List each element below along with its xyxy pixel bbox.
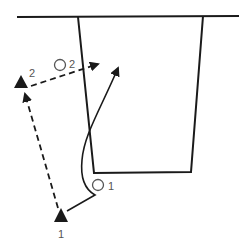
- triangle-player-2-icon: [14, 75, 28, 88]
- triangle-1-label: 1: [58, 228, 64, 240]
- circle-player-2-icon: [55, 60, 66, 71]
- movement-diagram: 2 2 1 1: [0, 0, 239, 243]
- dashed-run-arrow-1: [25, 94, 58, 208]
- top-boundary-line: [17, 16, 239, 17]
- circle-1-label: 1: [108, 180, 114, 192]
- circle-player-1-icon: [93, 180, 104, 191]
- triangle-player-1-icon: [54, 208, 68, 222]
- box-outline: [78, 16, 203, 173]
- triangle-2-label: 2: [29, 67, 35, 79]
- circle-2-label: 2: [69, 58, 75, 70]
